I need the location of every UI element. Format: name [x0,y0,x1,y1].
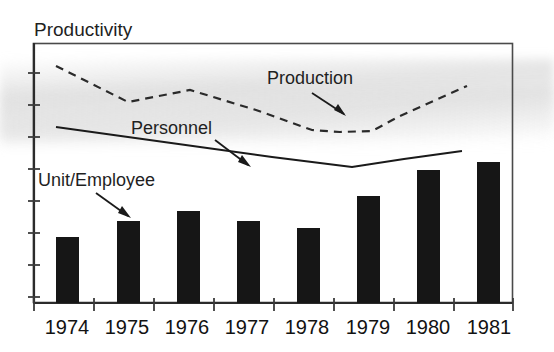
production-line [56,66,467,132]
x-label-1979: 1979 [346,316,391,338]
productivity-chart: Productivity [0,0,554,352]
bar-1981 [477,162,500,303]
unit-employee-label: Unit/Employee [38,170,155,190]
x-label-1980: 1980 [406,316,451,338]
x-label-1981: 1981 [467,316,512,338]
bar-1974 [56,237,79,303]
x-label-1976: 1976 [165,316,210,338]
x-label-1975: 1975 [105,316,150,338]
bar-1976 [177,211,200,303]
x-axis-labels: 1974 1975 1976 1977 1978 1979 1980 1981 [45,316,512,338]
bar-1977 [237,221,260,303]
bar-1975 [117,221,140,303]
bar-1979 [357,196,380,303]
x-label-1974: 1974 [45,316,90,338]
production-label: Production [267,68,353,88]
chart-title: Productivity [34,19,133,40]
production-arrow [312,93,346,116]
x-axis-ticks [34,298,513,311]
x-label-1978: 1978 [285,316,330,338]
x-label-1977: 1977 [225,316,270,338]
bar-1978 [297,228,320,303]
bar-1980 [417,170,440,303]
personnel-label: Personnel [131,118,212,138]
personnel-line [56,127,462,167]
chart-canvas: Productivity [0,0,554,352]
unit-employee-arrow [96,193,131,218]
